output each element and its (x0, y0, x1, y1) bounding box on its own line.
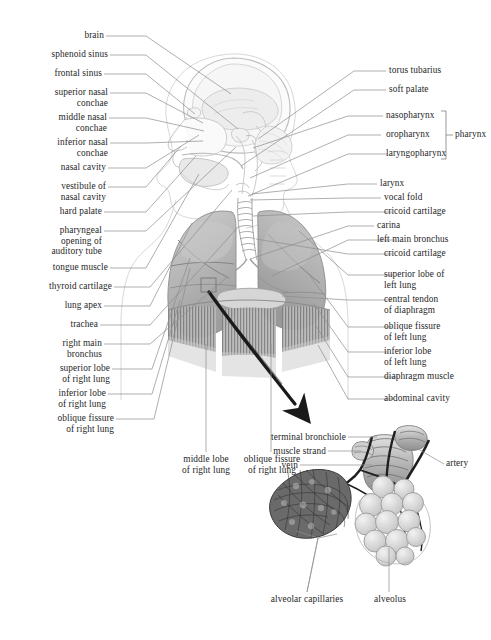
label-pharyngeal-opening-of-auditory-tube: pharyngeal opening of auditory tube (0, 225, 102, 257)
figure-canvas: brain sphenoid sinus frontal sinus super… (0, 0, 491, 640)
label-oblique-fissure-of-right-lung: oblique fissure of right lung (0, 413, 114, 434)
label-vein: vein (252, 460, 298, 471)
label-vestibule-of-nasal-cavity: vestibule of nasal cavity (0, 181, 106, 202)
label-central-tendon-of-diaphragm: central tendon of diaphragm (384, 294, 484, 315)
label-inferior-lobe-of-right-lung: inferior lobe of right lung (0, 388, 106, 409)
label-inferior-nasal-conchae: inferior nasal conchae (0, 137, 108, 158)
label-brain: brain (0, 30, 104, 41)
label-oblique-fissure-of-left-lung: oblique fissure of left lung (384, 321, 484, 342)
label-hard-palate: hard palate (0, 206, 102, 217)
label-soft-palate: soft palate (389, 84, 491, 95)
label-alveolus: alveolus (364, 594, 416, 605)
label-cricoid-cartilage-lower: cricoid cartilage (384, 248, 488, 259)
label-left-main-bronchus: left main bronchus (377, 234, 487, 245)
label-thyroid-cartilage: thyroid cartilage (0, 281, 112, 292)
label-diaphragm-muscle: diaphragm muscle (384, 371, 488, 382)
label-superior-lobe-of-right-lung: superior lobe of right lung (0, 363, 110, 384)
label-lung-apex: lung apex (0, 300, 102, 311)
label-frontal-sinus: frontal sinus (0, 68, 102, 79)
label-terminal-bronchiole: terminal bronchiole (252, 432, 346, 443)
label-trachea: trachea (0, 319, 98, 330)
label-inferior-lobe-of-left-lung: inferior lobe of left lung (384, 346, 484, 367)
label-laryngopharynx: laryngopharynx (386, 148, 476, 159)
label-superior-nasal-conchae: superior nasal conchae (0, 87, 108, 108)
label-alveolar-capillaries: alveolar capillaries (253, 594, 361, 605)
label-larynx: larynx (380, 178, 480, 189)
label-pharynx-group: pharynx (455, 129, 491, 140)
label-cricoid-cartilage-upper: cricoid cartilage (384, 206, 488, 217)
label-muscle-strand: muscle strand (252, 446, 326, 457)
label-nasopharynx: nasopharynx (386, 110, 472, 121)
label-nasal-cavity: nasal cavity (0, 162, 106, 173)
label-artery: artery (446, 458, 491, 469)
label-torus-tubarius: torus tubarius (389, 65, 491, 76)
label-sphenoid-sinus: sphenoid sinus (0, 49, 108, 60)
label-right-main-bronchus: right main bronchus (0, 338, 102, 359)
label-vocal-fold: vocal fold (384, 192, 484, 203)
label-abdominal-cavity: abdominal cavity (384, 393, 488, 404)
label-carina: carina (377, 220, 477, 231)
label-superior-lobe-of-left-lung: superior lobe of left lung (384, 269, 488, 290)
label-tongue-muscle: tongue muscle (0, 262, 108, 273)
label-middle-nasal-conchae: middle nasal conchae (0, 112, 107, 133)
